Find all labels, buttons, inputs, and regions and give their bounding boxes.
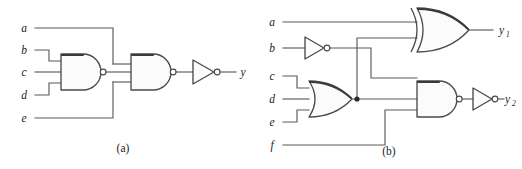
b-input-label-c: c	[269, 70, 274, 82]
output-label-y1-subscript: 1	[506, 30, 510, 39]
gate-nand-b	[417, 81, 462, 117]
b-input-label-a: a	[269, 16, 275, 28]
wire-b-input-c	[283, 76, 309, 88]
output-label-y: y	[239, 66, 246, 79]
wire-junction-dot	[354, 96, 359, 101]
wire-input-d	[35, 83, 61, 95]
wire-b-input-e	[283, 110, 309, 122]
nand-1-bubble	[100, 69, 106, 75]
output-label-y2: y 2	[504, 93, 516, 108]
gate-xor-1	[411, 8, 469, 52]
gate-inverter-b-output	[473, 88, 498, 110]
wire-b-input-f	[283, 110, 417, 145]
nand-b-bubble	[456, 96, 462, 102]
input-label-d: d	[21, 89, 27, 101]
b-input-label-d: d	[269, 93, 275, 105]
circuit-diagram-b: a b c d e f y 1 y 2 (b)	[261, 0, 522, 169]
output-label-y2-subscript: 2	[512, 99, 516, 108]
output-label-y1: y 1	[498, 24, 510, 39]
inverter-b-input-bubble	[324, 45, 330, 51]
inverter-b-output-bubble	[492, 96, 498, 102]
gate-inverter-b-input	[305, 37, 330, 59]
input-label-b: b	[21, 44, 27, 56]
wire-b-not-to-nand	[330, 48, 417, 78]
wire-or-to-xor	[357, 38, 417, 99]
inverter-a-bubble	[214, 69, 220, 75]
nand-2-bubble	[170, 69, 176, 75]
output-label-y1-base: y	[498, 24, 505, 37]
input-label-e: e	[21, 112, 26, 124]
gate-nand-1	[61, 54, 106, 90]
b-input-label-b: b	[269, 42, 275, 54]
circuit-diagram-a: a b c d e y (a)	[0, 0, 261, 169]
wire-input-b	[35, 50, 61, 61]
input-label-c: c	[21, 66, 26, 78]
logic-circuit-figure: a b c d e y (a)	[0, 0, 522, 169]
b-input-label-e: e	[269, 116, 274, 128]
gate-inverter-a	[193, 60, 220, 84]
output-label-y2-base: y	[504, 93, 511, 106]
gate-nand-2	[131, 54, 176, 90]
caption-a: (a)	[117, 142, 130, 155]
input-label-a: a	[21, 22, 27, 34]
caption-b: (b)	[382, 145, 396, 158]
b-input-label-f: f	[270, 139, 275, 152]
gate-or-1	[309, 81, 352, 117]
